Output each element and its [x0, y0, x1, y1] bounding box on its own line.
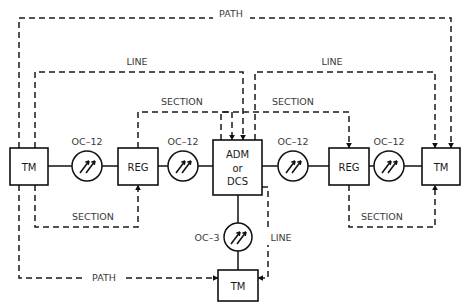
- node-tm-left[interactable]: TM: [10, 148, 48, 185]
- span-label-section-top-right: SECTION: [272, 96, 314, 107]
- repeater-circle: [168, 151, 198, 181]
- repeater-amp-1: [72, 151, 102, 181]
- rate-label-oc12-4: OC–12: [374, 136, 405, 147]
- diagram-canvas: TM REG ADM or DCS REG TM TM OC–12 OC–12: [0, 0, 470, 308]
- node-tm-right[interactable]: TM: [422, 148, 460, 185]
- repeater-circle: [72, 151, 102, 181]
- rate-label-oc3: OC–3: [195, 232, 220, 243]
- span-path-top: [19, 18, 451, 148]
- rate-label-oc12-2: OC–12: [168, 136, 199, 147]
- node-label-line-1: ADM: [226, 149, 249, 160]
- span-label-section-top-left: SECTION: [161, 96, 203, 107]
- node-reg-left[interactable]: REG: [118, 148, 158, 185]
- node-tm-bottom[interactable]: TM: [218, 270, 258, 301]
- node-label-line-3: DCS: [227, 176, 248, 187]
- node-adm-dcs[interactable]: ADM or DCS: [213, 140, 262, 195]
- span-label-section-bottom-left: SECTION: [72, 211, 114, 222]
- span-label-path-bottom: PATH: [92, 272, 116, 283]
- repeater-amp-4: [374, 151, 404, 181]
- span-label-line-right: LINE: [321, 56, 342, 67]
- rate-label-oc12-3: OC–12: [278, 136, 309, 147]
- span-path-bottom: [19, 185, 218, 278]
- node-reg-right[interactable]: REG: [329, 148, 369, 185]
- span-label-line-left: LINE: [126, 56, 147, 67]
- node-label: TM: [230, 281, 246, 292]
- repeater-amp-5: [224, 223, 252, 251]
- node-label-line-2: or: [232, 163, 243, 174]
- node-label: TM: [21, 162, 37, 173]
- node-label: TM: [433, 162, 449, 173]
- repeater-amp-2: [168, 151, 198, 181]
- repeater-amp-3: [278, 151, 308, 181]
- span-label-path-top: PATH: [219, 8, 243, 19]
- node-label: REG: [127, 162, 148, 173]
- repeater-circle: [374, 151, 404, 181]
- rate-label-oc12-1: OC–12: [72, 136, 103, 147]
- span-label-line-bottom: LINE: [270, 232, 291, 243]
- node-label: REG: [338, 162, 359, 173]
- span-line-left: [35, 72, 243, 148]
- repeater-circle: [278, 151, 308, 181]
- span-label-section-bottom-right: SECTION: [361, 211, 403, 222]
- repeater-circle: [224, 223, 252, 251]
- network-layer-diagram: TM REG ADM or DCS REG TM TM OC–12 OC–12: [0, 0, 470, 308]
